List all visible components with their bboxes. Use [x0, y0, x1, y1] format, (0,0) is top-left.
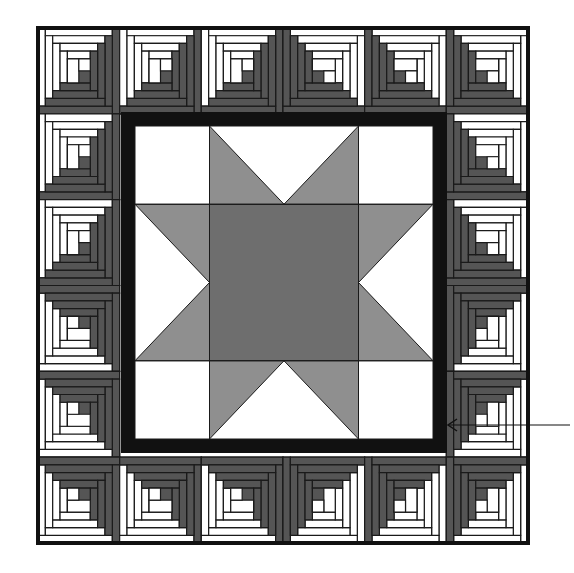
log-cabin-block [446, 200, 528, 286]
log-cabin-block [365, 457, 447, 543]
log-cabin-block [365, 28, 447, 114]
log-cabin-block [38, 114, 120, 200]
log-cabin-block [38, 286, 120, 372]
log-cabin-block [283, 28, 365, 114]
log-cabin-block [38, 200, 120, 286]
log-cabin-block [38, 457, 120, 543]
log-cabin-block [446, 114, 528, 200]
star-center-square [210, 204, 359, 361]
sawtooth-star-block [135, 126, 433, 439]
log-cabin-block [201, 28, 283, 114]
log-cabin-block [283, 457, 365, 543]
quilt-diagram [0, 0, 574, 573]
log-cabin-block [38, 28, 120, 114]
log-cabin-block [446, 286, 528, 372]
log-cabin-block [446, 457, 528, 543]
log-cabin-block [446, 28, 528, 114]
log-cabin-block [120, 457, 202, 543]
log-cabin-block [38, 371, 120, 457]
log-cabin-block [446, 371, 528, 457]
log-cabin-block [201, 457, 283, 543]
log-cabin-block [120, 28, 202, 114]
